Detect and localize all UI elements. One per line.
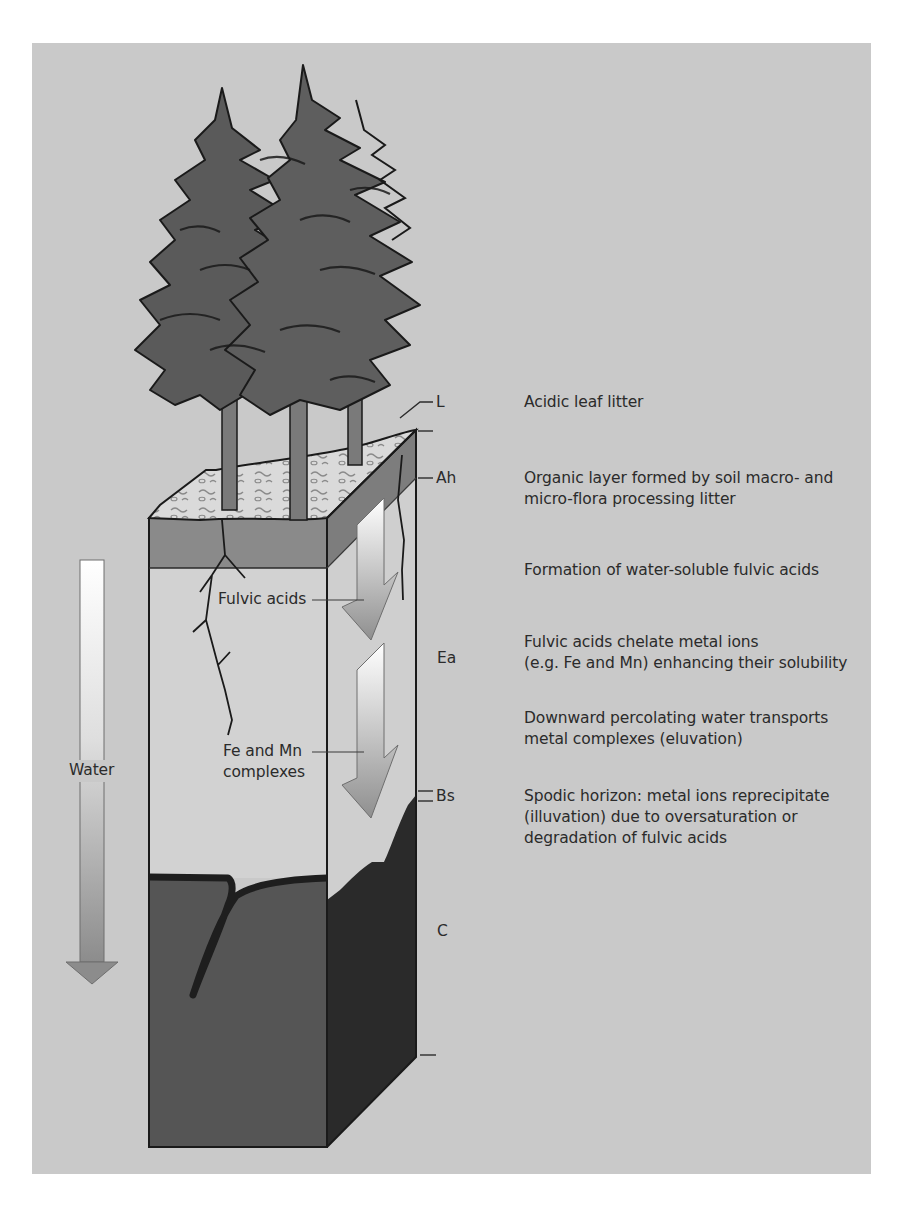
fe-mn-label-line1: Fe and Mn: [223, 741, 302, 762]
fulvic-acids-label: Fulvic acids: [218, 589, 306, 610]
desc-eluvation: Downward percolating water transports me…: [524, 708, 828, 750]
horizon-code-c: C: [437, 921, 448, 941]
horizon-code-bs: Bs: [436, 786, 455, 806]
horizon-code-ah: Ah: [436, 468, 456, 488]
water-label: Water: [69, 760, 114, 781]
desc-ea: Fulvic acids chelate metal ions (e.g. Fe…: [524, 632, 847, 674]
desc-fulvic-formation: Formation of water-soluble fulvic acids: [524, 560, 819, 581]
horizon-code-l: L: [436, 392, 445, 412]
soil-block-front-face: [149, 518, 327, 1147]
desc-bs: Spodic horizon: metal ions reprecipitate…: [524, 786, 830, 849]
fe-mn-label-line2: complexes: [223, 762, 305, 783]
horizon-code-ea: Ea: [437, 648, 456, 668]
desc-l: Acidic leaf litter: [524, 392, 643, 413]
soil-profile-illustration: [0, 0, 899, 1206]
desc-ah: Organic layer formed by soil macro- and …: [524, 468, 833, 510]
